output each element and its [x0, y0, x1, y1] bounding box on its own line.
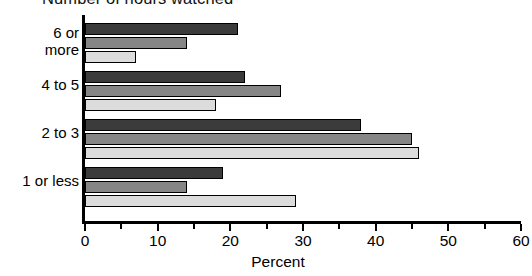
bar-group	[85, 167, 521, 207]
axis-tick-major	[84, 224, 86, 231]
axis-tick-major	[157, 224, 159, 231]
bar	[85, 195, 296, 207]
axis-tick-label: 0	[65, 232, 105, 250]
bar-chart: Number of hours watched 6 ormore4 to 52 …	[0, 0, 532, 276]
axis-tick-major	[229, 224, 231, 231]
axis-tick-major	[447, 224, 449, 231]
category-label: 2 to 3	[1, 124, 79, 141]
x-axis-title: Percent	[0, 253, 532, 271]
category-labels: 6 ormore4 to 52 to 31 or less	[0, 18, 79, 221]
x-axis-title-text: Percent	[251, 253, 304, 271]
axis-tick-minor	[411, 224, 413, 229]
bar	[85, 71, 245, 83]
axis-tick-label: 10	[138, 232, 178, 250]
category-label-line: 1 or less	[1, 172, 79, 189]
axis-tick-minor	[338, 224, 340, 229]
bar	[85, 99, 216, 111]
axis-tick-minor	[484, 224, 486, 229]
bar	[85, 147, 419, 159]
bar	[85, 133, 412, 145]
bar-group	[85, 23, 521, 63]
bar	[85, 181, 187, 193]
bar-group	[85, 119, 521, 159]
axis-tick-minor	[120, 224, 122, 229]
axis-tick-label: 30	[283, 232, 323, 250]
bar-group	[85, 71, 521, 111]
axis-tick-major	[375, 224, 377, 231]
axis-tick-label: 20	[210, 232, 250, 250]
axis-tick-label: 40	[356, 232, 396, 250]
axis-tick-minor	[193, 224, 195, 229]
category-label-line: 4 to 5	[1, 76, 79, 93]
axis-tick-label: 60	[501, 232, 532, 250]
bar	[85, 167, 223, 179]
axis-tick-label: 50	[428, 232, 468, 250]
axis-tick-major	[302, 224, 304, 231]
bar	[85, 51, 136, 63]
category-label: 6 ormore	[1, 24, 79, 58]
bar	[85, 37, 187, 49]
category-label-line: 6 or	[1, 24, 79, 41]
bar	[85, 85, 281, 97]
plot-area	[85, 18, 521, 221]
chart-title: Number of hours watched	[42, 0, 233, 8]
category-label-line: more	[1, 41, 79, 58]
category-label: 4 to 5	[1, 76, 79, 93]
axis-tick-major	[520, 224, 522, 231]
bar	[85, 119, 361, 131]
category-label: 1 or less	[1, 172, 79, 189]
category-label-line: 2 to 3	[1, 124, 79, 141]
bar	[85, 23, 238, 35]
axis-tick-minor	[266, 224, 268, 229]
